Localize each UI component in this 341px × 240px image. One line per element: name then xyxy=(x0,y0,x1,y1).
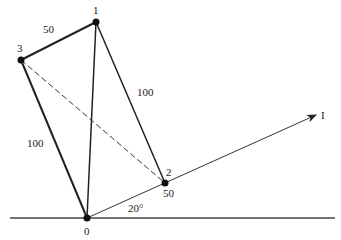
edge-label-2: 50 xyxy=(163,187,175,199)
node-label-0: 0 xyxy=(84,225,90,237)
link-1-0 xyxy=(87,22,96,218)
node-label-2: 2 xyxy=(166,166,172,178)
node-3 xyxy=(18,57,25,64)
node-0 xyxy=(84,215,91,222)
link-3-1 xyxy=(21,22,96,60)
node-label-1: 1 xyxy=(93,4,99,16)
node-1 xyxy=(93,19,100,26)
linkage-diagram: 0 1 2 3 50 100 100 50 20° I xyxy=(0,0,341,240)
vector-i-line xyxy=(87,115,316,218)
vector-label: I xyxy=(321,109,325,121)
angle-label: 20° xyxy=(128,202,143,214)
edge-label-1-2: 100 xyxy=(137,86,154,98)
edge-label-3-1: 50 xyxy=(43,23,55,35)
edge-label-3-0: 100 xyxy=(27,137,44,149)
link-1-2 xyxy=(96,22,165,183)
node-2 xyxy=(162,180,169,187)
node-label-3: 3 xyxy=(17,42,23,54)
